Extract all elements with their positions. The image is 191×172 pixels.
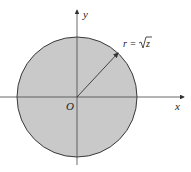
sqrt-argument: z: [145, 38, 150, 49]
disk-diagram: y x O r = z: [0, 0, 191, 172]
origin-label: O: [66, 100, 74, 112]
radius-label: r =: [123, 38, 136, 49]
x-axis-label: x: [174, 100, 180, 112]
y-axis-label: y: [82, 8, 88, 20]
